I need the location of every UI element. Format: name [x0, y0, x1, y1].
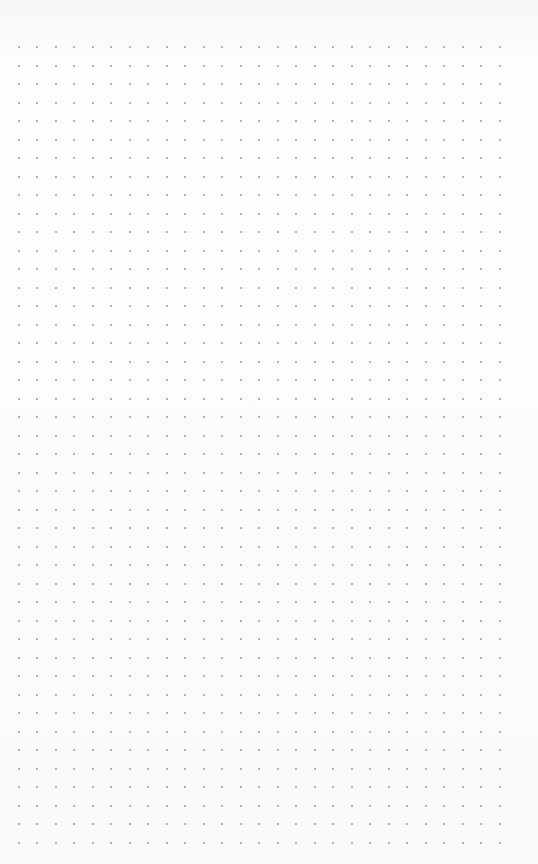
grid-dot [147, 453, 149, 455]
grid-dot [147, 176, 149, 178]
grid-dot [203, 287, 205, 289]
grid-dot [462, 675, 464, 677]
grid-dot [425, 46, 427, 48]
grid-dot [295, 231, 297, 233]
grid-dot [203, 601, 205, 603]
grid-dot [240, 768, 242, 770]
grid-dot [92, 287, 94, 289]
grid-dot [351, 305, 353, 307]
grid-dot [203, 731, 205, 733]
grid-dot [351, 768, 353, 770]
grid-dot [18, 564, 20, 566]
grid-dot [332, 342, 334, 344]
grid-dot [73, 842, 75, 844]
grid-dot [203, 305, 205, 307]
grid-dot [277, 749, 279, 751]
grid-dot [147, 675, 149, 677]
grid-dot [388, 46, 390, 48]
grid-dot [499, 176, 501, 178]
grid-dot [277, 842, 279, 844]
grid-dot [166, 268, 168, 270]
grid-dot [314, 842, 316, 844]
grid-dot [203, 398, 205, 400]
grid-dot [147, 749, 149, 751]
grid-dot [92, 786, 94, 788]
grid-dot [480, 694, 482, 696]
grid-dot [203, 194, 205, 196]
grid-dot [73, 601, 75, 603]
grid-dot [443, 324, 445, 326]
grid-dot [406, 268, 408, 270]
grid-dot [406, 435, 408, 437]
grid-dot [406, 379, 408, 381]
grid-dot [258, 213, 260, 215]
grid-dot [351, 472, 353, 474]
grid-dot [443, 823, 445, 825]
grid-dot [73, 250, 75, 252]
grid-dot [73, 176, 75, 178]
grid-dot [258, 694, 260, 696]
grid-dot [147, 657, 149, 659]
grid-dot [351, 213, 353, 215]
grid-dot [406, 65, 408, 67]
grid-dot [18, 842, 20, 844]
grid-dot [203, 157, 205, 159]
grid-dot [166, 65, 168, 67]
grid-dot [18, 287, 20, 289]
grid-dot [277, 176, 279, 178]
grid-dot [480, 546, 482, 548]
grid-dot [110, 842, 112, 844]
grid-dot [480, 583, 482, 585]
grid-dot [55, 139, 57, 141]
grid-dot [240, 379, 242, 381]
grid-dot [258, 435, 260, 437]
grid-dot [166, 361, 168, 363]
grid-dot [425, 490, 427, 492]
grid-dot [406, 120, 408, 122]
grid-dot [462, 527, 464, 529]
grid-dot [240, 120, 242, 122]
grid-dot [166, 213, 168, 215]
grid-dot [351, 805, 353, 807]
grid-dot [203, 324, 205, 326]
grid-dot [110, 805, 112, 807]
grid-dot [332, 490, 334, 492]
grid-dot [258, 657, 260, 659]
grid-dot [499, 213, 501, 215]
grid-dot [240, 83, 242, 85]
grid-dot [73, 527, 75, 529]
grid-dot [277, 213, 279, 215]
grid-dot [203, 509, 205, 511]
grid-dot [388, 472, 390, 474]
grid-dot [73, 731, 75, 733]
grid-dot [443, 638, 445, 640]
grid-dot [203, 342, 205, 344]
grid-dot [258, 712, 260, 714]
grid-dot [314, 749, 316, 751]
grid-dot [462, 342, 464, 344]
grid-dot [425, 120, 427, 122]
grid-dot [351, 65, 353, 67]
grid-dot [369, 509, 371, 511]
grid-dot [92, 324, 94, 326]
grid-dot [351, 712, 353, 714]
grid-dot [240, 435, 242, 437]
grid-dot [277, 379, 279, 381]
grid-dot [203, 527, 205, 529]
grid-dot [73, 268, 75, 270]
grid-dot [258, 231, 260, 233]
grid-dot [499, 361, 501, 363]
grid-dot [18, 823, 20, 825]
grid-dot [480, 805, 482, 807]
grid-dot [425, 657, 427, 659]
grid-dot [480, 472, 482, 474]
grid-dot [129, 213, 131, 215]
grid-dot [369, 139, 371, 141]
grid-dot [332, 157, 334, 159]
grid-dot [110, 768, 112, 770]
grid-dot [36, 749, 38, 751]
grid-dot [480, 139, 482, 141]
grid-dot [277, 83, 279, 85]
grid-dot [277, 768, 279, 770]
grid-dot [18, 120, 20, 122]
